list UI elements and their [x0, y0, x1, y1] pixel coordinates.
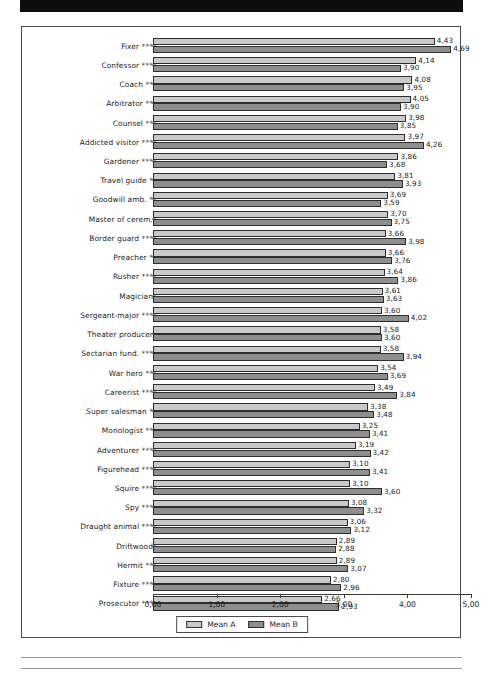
x-axis-tick-label: 1,00	[208, 600, 225, 609]
bar-mean-a	[153, 461, 350, 468]
chart-row: Preacher *3,663,76	[22, 248, 462, 267]
category-label: Counsel **	[113, 118, 153, 127]
bar-group: 3,383,48	[153, 403, 462, 420]
chart-row: Goodwill amb. *3,693,59	[22, 190, 462, 209]
category-label: Coach **	[120, 80, 154, 89]
bar-mean-b	[153, 84, 404, 91]
chart-row: Coach **4,083,95	[22, 74, 462, 93]
bar-group: 2,892,88	[153, 537, 462, 554]
bar-mean-b	[153, 65, 401, 72]
footer-rule-bottom	[21, 668, 462, 669]
bar-group: 3,083,32	[153, 499, 462, 516]
chart-row: Fixture ***2,802,96	[22, 575, 462, 594]
category-label: Preacher *	[113, 253, 153, 262]
bar-group: 3,543,69	[153, 364, 462, 381]
top-black-banner	[20, 0, 463, 12]
chart-row: Travel guide *3,813,93	[22, 171, 462, 190]
category-label: Fixer ***	[121, 41, 153, 50]
chart-row: Border guard ***3,663,98	[22, 228, 462, 247]
bar-mean-a	[153, 57, 416, 64]
bar-group: 3,974,26	[153, 133, 462, 150]
category-label: Goodwill amb. *	[93, 195, 153, 204]
bar-group: 3,604,02	[153, 307, 462, 324]
bar-mean-b	[153, 334, 382, 341]
bar-mean-a	[153, 96, 411, 103]
bar-value-label: 3,10	[352, 459, 368, 468]
chart-frame: Fixer ***4,434,69Confessor ***4,143,90Co…	[21, 26, 461, 638]
bar-value-label: 3,85	[400, 121, 416, 130]
bar-group: 3,103,60	[153, 480, 462, 497]
category-label: Master of cerem.	[89, 214, 153, 223]
chart-legend: Mean A Mean B	[176, 616, 308, 633]
bar-value-label: 3,75	[394, 217, 410, 226]
bar-group: 3,583,60	[153, 326, 462, 343]
bar-value-label: 3,59	[383, 198, 399, 207]
bar-value-label: 3,60	[384, 487, 400, 496]
x-axis-tick-label: 2,00	[272, 600, 289, 609]
bar-mean-a	[153, 423, 360, 430]
bar-mean-a	[153, 288, 383, 295]
bar-mean-a	[153, 115, 406, 122]
bar-group: 4,053,90	[153, 95, 462, 112]
bar-value-label: 4,26	[426, 140, 442, 149]
bar-value-label: 4,43	[437, 36, 453, 45]
bar-value-label: 3,49	[377, 383, 393, 392]
bar-mean-a	[153, 538, 337, 545]
bar-mean-a	[153, 346, 381, 353]
chart-row: Spy ***3,083,32	[22, 498, 462, 517]
bar-value-label: 4,14	[418, 56, 434, 65]
legend-item-mean-a: Mean A	[186, 620, 235, 629]
bar-group: 4,083,95	[153, 76, 462, 93]
chart-row: Addicted visitor ***3,974,26	[22, 132, 462, 151]
bar-value-label: 3,66	[388, 229, 404, 238]
bar-mean-a	[153, 230, 386, 237]
x-axis-tick	[280, 594, 281, 598]
bar-value-label: 3,58	[383, 344, 399, 353]
bar-mean-b	[153, 238, 406, 245]
bar-mean-a	[153, 403, 368, 410]
bar-group: 4,143,90	[153, 57, 462, 74]
bar-mean-b	[153, 142, 424, 149]
chart-row: Draught animal ***3,063,12	[22, 517, 462, 536]
chart-row: Sergeant-major ***3,604,02	[22, 305, 462, 324]
bar-mean-b	[153, 430, 370, 437]
bar-group: 2,802,96	[153, 576, 462, 593]
bar-mean-b	[153, 373, 388, 380]
bar-mean-a	[153, 192, 388, 199]
bar-value-label: 3,97	[407, 132, 423, 141]
chart-row: Sectarian fund. ***3,583,94	[22, 344, 462, 363]
category-label: Hermit **	[117, 560, 153, 569]
bar-value-label: 3,42	[373, 448, 389, 457]
bar-mean-a	[153, 307, 382, 314]
category-label: Adventurer ***	[97, 445, 153, 454]
bar-mean-b	[153, 565, 348, 572]
bar-value-label: 3,98	[408, 237, 424, 246]
bar-mean-b	[153, 257, 392, 264]
chart-row: Theater producer3,583,60	[22, 325, 462, 344]
bar-mean-a	[153, 596, 322, 603]
bar-value-label: 3,63	[386, 294, 402, 303]
chart-rows: Fixer ***4,434,69Confessor ***4,143,90Co…	[22, 36, 462, 613]
chart-row: Careerist ***3,493,84	[22, 382, 462, 401]
bar-value-label: 4,69	[453, 44, 469, 53]
bar-group: 3,103,41	[153, 460, 462, 477]
bar-group: 3,693,59	[153, 191, 462, 208]
bar-mean-b	[153, 123, 398, 130]
chart-row: Gardener ***3,863,68	[22, 151, 462, 170]
bar-value-label: 3,48	[376, 410, 392, 419]
category-label: Sectarian fund. ***	[81, 349, 153, 358]
chart-row: Prosecutor ***2,662,93	[22, 594, 462, 613]
bar-mean-b	[153, 507, 364, 514]
category-label: Confessor ***	[101, 60, 153, 69]
bar-mean-b	[153, 411, 374, 418]
bar-mean-b	[153, 296, 384, 303]
bar-value-label: 3,08	[351, 498, 367, 507]
chart-row: Magician3,613,63	[22, 286, 462, 305]
category-label: Sergeant-major ***	[80, 310, 153, 319]
bar-mean-a	[153, 38, 435, 45]
category-label: Arbitrator **	[106, 99, 153, 108]
legend-label-mean-b: Mean B	[269, 620, 297, 629]
bar-mean-b	[153, 488, 382, 495]
legend-label-mean-a: Mean A	[207, 620, 235, 629]
bar-mean-a	[153, 134, 405, 141]
